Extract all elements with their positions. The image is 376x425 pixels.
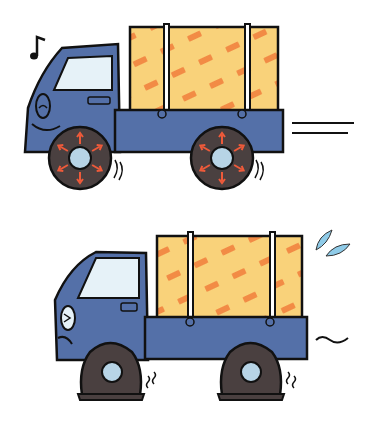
sweat-drops-icon	[316, 230, 350, 256]
truck-illustration	[0, 0, 376, 425]
music-note-icon	[30, 37, 45, 60]
cargo-box	[130, 24, 278, 116]
rear-wheel	[191, 127, 253, 189]
cargo-box	[157, 232, 302, 322]
speed-lines-icon	[292, 123, 354, 133]
front-wheel	[49, 127, 111, 189]
truck-bed	[145, 317, 307, 359]
sad-truck	[55, 230, 350, 400]
happy-truck	[25, 24, 354, 189]
exhaust-wave-icon	[316, 337, 348, 343]
